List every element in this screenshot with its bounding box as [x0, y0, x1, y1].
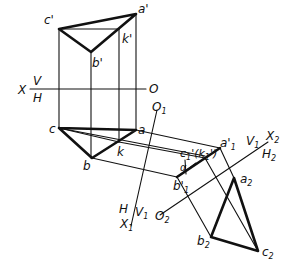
- label-axis-o: O: [149, 82, 158, 96]
- label-b2: b2: [197, 234, 210, 250]
- label-h2: H2: [262, 147, 276, 163]
- label-c: c: [49, 122, 56, 136]
- label-o1: O1: [152, 100, 167, 116]
- label-alpha: α: [180, 162, 187, 173]
- drawing-canvas: c' a' b' k' X V H O c a b k O1 H V1 X1 c…: [0, 0, 290, 264]
- triangle-true-shape: [211, 178, 258, 251]
- label-a: a: [138, 123, 145, 137]
- label-o2: O2: [155, 209, 170, 225]
- label-axis-x: X: [17, 83, 27, 97]
- label-a-prime: a': [138, 2, 149, 16]
- label-k: k: [117, 145, 125, 159]
- label-v1-on-x2: V1: [246, 134, 259, 150]
- label-c1-k1: c1'(k1'): [180, 147, 217, 162]
- label-x2: X2: [265, 129, 279, 145]
- label-b1-prime: b'1: [173, 179, 189, 195]
- label-b: b: [83, 159, 91, 173]
- label-v1-on-x1: V1: [135, 205, 148, 221]
- label-k-prime: k': [122, 32, 132, 46]
- transfer-line-b: [92, 158, 177, 177]
- label-axis-h: H: [33, 91, 42, 105]
- label-a1-prime: a'1: [220, 136, 236, 152]
- label-c2: c2: [262, 245, 274, 261]
- geometry-drawing: c' a' b' k' X V H O c a b k O1 H V1 X1 c…: [0, 0, 290, 264]
- label-b-prime: b': [92, 56, 103, 70]
- auxiliary-v1-projection: [177, 148, 258, 251]
- label-axis-v: V: [33, 74, 42, 88]
- label-a2: a2: [240, 172, 252, 188]
- label-x1: X1: [119, 217, 133, 233]
- label-h-on-x1: H: [119, 202, 128, 216]
- label-c-prime: c': [44, 13, 54, 27]
